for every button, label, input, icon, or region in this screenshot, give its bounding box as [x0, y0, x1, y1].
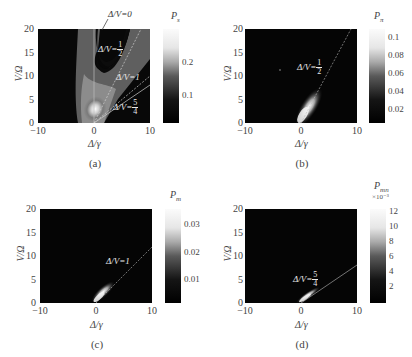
y-tick: 15 [227, 48, 243, 58]
annotation-delta-v-half: Δ/V=12 [98, 41, 123, 58]
annotation-delta-v-five-fourths: Δ/V=54 [113, 99, 138, 116]
x-tick: 0 [82, 126, 106, 136]
panel-a: V/Ω 20 15 10 5 0 Δ/V=12 Δ/V=1 Δ/V=54 Δ/V… [0, 0, 206, 178]
annotation-delta-v-one: Δ/V=1 [116, 73, 140, 82]
y-tick: 20 [227, 204, 243, 214]
colorbar-title: Pm [170, 189, 181, 203]
colorbar-tick: 0.1 [182, 91, 193, 100]
x-tick: 0 [289, 126, 313, 136]
colorbar-scale: ×10⁻³ [372, 193, 389, 201]
colorbar-tick: 0.03 [184, 220, 200, 229]
colorbar-title: Ps [171, 10, 180, 24]
colorbar-title: Pmn [374, 180, 389, 194]
x-axis-label: Δ/γ [295, 138, 308, 149]
y-tick: 20 [18, 24, 34, 34]
heatmap-plot-a: Δ/V=12 Δ/V=1 Δ/V=54 [38, 29, 150, 123]
colorbar-tick: 0.02 [184, 248, 200, 257]
x-tick: 10 [140, 306, 164, 316]
x-axis-label: Δ/γ [88, 138, 101, 149]
y-tick: 10 [20, 251, 36, 261]
annotation-delta-v-one: Δ/V=1 [106, 257, 130, 266]
x-tick: −10 [28, 306, 52, 316]
colorbar-tick: 0.01 [184, 275, 200, 284]
panel-d: V/Ω 20 15 10 5 0 Δ/V=54 −10 0 10 Δ/γ (d)… [206, 178, 412, 356]
panel-b: V/Ω 20 15 10 5 0 Δ/V=12 −10 0 10 Δ/γ (b)… [206, 0, 412, 178]
panel-caption: (d) [287, 338, 317, 350]
x-tick: −10 [233, 126, 257, 136]
colorbar-tick: 0.06 [388, 69, 404, 78]
colorbar-title: Pπ [374, 10, 384, 24]
panel-caption: (b) [287, 157, 317, 169]
y-tick: 5 [20, 275, 36, 285]
y-tick: 15 [227, 228, 243, 238]
colorbar-tick: 0.08 [388, 51, 404, 60]
colorbar-tick: 12 [389, 207, 398, 216]
y-tick: 10 [227, 71, 243, 81]
colorbar-d [370, 209, 386, 303]
colorbar-tick: 8 [389, 237, 394, 246]
y-tick: 5 [227, 275, 243, 285]
panel-caption: (c) [82, 338, 112, 350]
x-axis-label: Δ/γ [295, 319, 308, 330]
y-tick: 15 [20, 228, 36, 238]
x-tick: 0 [289, 306, 313, 316]
y-tick: 5 [227, 95, 243, 105]
annotation-delta-v-zero: Δ/V=0 [108, 10, 132, 19]
colorbar-b [369, 29, 385, 123]
x-axis-label: Δ/γ [90, 319, 103, 330]
y-tick: 20 [20, 204, 36, 214]
annotation-delta-v-half: Δ/V=12 [297, 59, 322, 76]
colorbar-tick: 0.04 [388, 87, 404, 96]
x-tick: −10 [233, 306, 257, 316]
y-tick: 5 [18, 95, 34, 105]
colorbar-tick: 0.2 [182, 58, 193, 67]
colorbar-a [163, 29, 179, 123]
colorbar-tick: 2 [389, 282, 394, 291]
y-tick: 10 [18, 71, 34, 81]
colorbar-tick: 4 [389, 267, 394, 276]
x-tick: −10 [26, 126, 50, 136]
x-tick: 0 [84, 306, 108, 316]
panel-caption: (a) [80, 157, 110, 169]
y-tick: 15 [18, 48, 34, 58]
panel-c: V/Ω 20 15 10 5 0 Δ/V=1 −10 0 10 Δ/γ (c) … [0, 178, 206, 356]
heatmap-plot-d: Δ/V=54 [245, 209, 357, 303]
x-tick: 10 [345, 306, 369, 316]
heatmap-plot-c: Δ/V=1 [40, 209, 152, 303]
x-tick: 10 [345, 126, 369, 136]
colorbar-tick: 6 [389, 252, 394, 261]
y-tick: 20 [227, 24, 243, 34]
x-tick: 10 [138, 126, 162, 136]
colorbar-tick: 0.02 [388, 105, 404, 114]
colorbar-tick: 0.1 [388, 33, 399, 42]
annotation-delta-v-five-fourths: Δ/V=54 [293, 271, 318, 288]
colorbar-c [165, 209, 181, 303]
heatmap-plot-b: Δ/V=12 [245, 29, 357, 123]
y-tick: 10 [227, 251, 243, 261]
colorbar-tick: 10 [389, 222, 398, 231]
